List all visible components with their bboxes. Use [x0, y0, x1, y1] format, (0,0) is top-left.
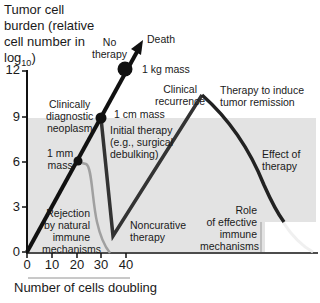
y-axis-label: Tumor cell burden (relative cell number … — [4, 2, 154, 71]
effect-of-therapy-label: Effect oftherapy — [262, 148, 300, 172]
immune-role-curve — [283, 222, 313, 252]
y-label-line: Tumor cell — [4, 2, 154, 18]
y-tick-6: 6 — [2, 154, 20, 169]
y-tick-9: 9 — [2, 109, 20, 124]
x-tick-20: 20 — [65, 257, 89, 272]
x-tick-10: 10 — [40, 257, 64, 272]
therapy-remission-label: Therapy to inducetumor remission — [220, 84, 304, 108]
y-label-line: cell number in — [4, 34, 154, 50]
y-tick-3: 3 — [2, 199, 20, 214]
cm-mass-label: 1 cm mass — [114, 108, 165, 120]
x-tick-30: 30 — [89, 257, 113, 272]
y-label-line: burden (relative — [4, 18, 154, 34]
y-tick-12: 12 — [2, 62, 20, 77]
clinically-diagnostic-label: Clinicallydiagnosticneoplasm — [46, 98, 93, 134]
immune-role-label: Roleof effectiveimmunemechanisms — [200, 204, 257, 252]
initial-therapy-label: Initial therapy(e.g., surgicaldebulking) — [110, 124, 173, 160]
x-tick-40: 40 — [114, 257, 138, 272]
x-tick-0: 0 — [15, 257, 39, 272]
noncurative-therapy-label: Noncurativetherapy — [130, 219, 186, 243]
rejection-label: Rejectionby naturalimmunemechanisms — [42, 207, 90, 255]
mm-mass-label: 1 mmmass — [47, 147, 73, 171]
death-label: Death — [147, 33, 175, 45]
clinical-recurrence-label: Clinicalrecurrence — [155, 83, 197, 107]
x-axis-label: Number of cells doubling — [14, 280, 157, 295]
y-label-line: log10) — [4, 50, 154, 71]
kg-mass-label: 1 kg mass — [142, 63, 190, 75]
marker-1mm — [74, 157, 83, 166]
no-therapy-label: Notherapy — [92, 36, 127, 60]
marker-1cm — [96, 113, 107, 124]
